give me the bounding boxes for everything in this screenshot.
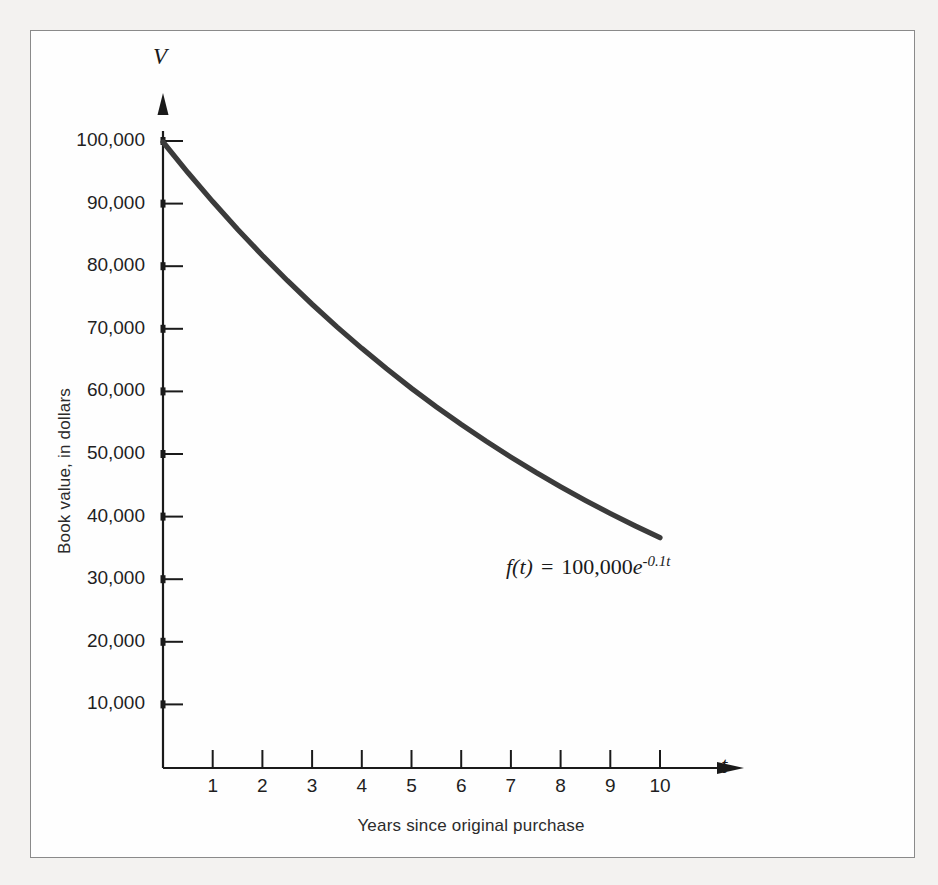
x-tick-label-3: 3	[292, 775, 332, 797]
equation-equals-sign: =	[541, 554, 553, 579]
y-axis-variable-label: V	[153, 44, 167, 70]
x-tick-label-2: 2	[242, 775, 282, 797]
y-tick-marks	[163, 141, 183, 704]
equation-exponent: -0.1t	[643, 553, 671, 569]
x-tick-marks	[213, 750, 660, 768]
y-axis-arrowhead	[158, 93, 169, 115]
x-tick-label-6: 6	[441, 775, 481, 797]
chart-plot-area	[31, 31, 916, 859]
equation-base: e	[633, 554, 643, 579]
equation-annotation: f(t)=100,000e-0.1t	[506, 553, 670, 580]
y-axis-title: Book value, in dollars	[55, 361, 75, 581]
y-tick-label-10000: 10,000	[35, 692, 145, 714]
y-tick-label-90000: 90,000	[35, 192, 145, 214]
x-axis-title: Years since original purchase	[281, 816, 661, 836]
y-tick-label-30000: 30,000	[35, 567, 145, 589]
x-tick-label-9: 9	[590, 775, 630, 797]
x-tick-label-5: 5	[392, 775, 432, 797]
y-tick-label-50000: 50,000	[35, 442, 145, 464]
y-tick-label-20000: 20,000	[35, 630, 145, 652]
y-tick-label-70000: 70,000	[35, 317, 145, 339]
x-tick-label-10: 10	[640, 775, 680, 797]
figure-frame: V t 100,000 90,000 80,000 70,000 60,000 …	[30, 30, 915, 858]
x-tick-label-8: 8	[541, 775, 581, 797]
x-axis-variable-label: t	[721, 753, 727, 779]
decay-curve	[163, 142, 660, 538]
y-tick-label-60000: 60,000	[35, 379, 145, 401]
y-tick-label-100000: 100,000	[35, 129, 145, 151]
y-tick-label-80000: 80,000	[35, 254, 145, 276]
x-tick-label-7: 7	[491, 775, 531, 797]
x-tick-label-1: 1	[193, 775, 233, 797]
equation-coefficient: 100,000	[561, 554, 633, 579]
x-tick-label-4: 4	[342, 775, 382, 797]
y-tick-label-40000: 40,000	[35, 505, 145, 527]
page-background: V t 100,000 90,000 80,000 70,000 60,000 …	[0, 0, 938, 885]
equation-lhs: f(t)	[506, 554, 533, 579]
